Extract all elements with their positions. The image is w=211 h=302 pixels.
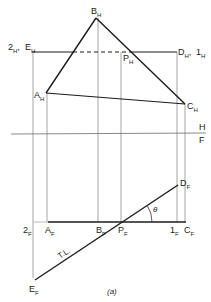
figure-caption: (a) xyxy=(107,287,117,296)
fold-label-h: H xyxy=(199,122,206,132)
label-1-h: 1H xyxy=(196,47,205,59)
label-p-h: PH xyxy=(123,53,133,65)
angle-theta-arc xyxy=(147,205,152,222)
front-view: θ T.L. 2F AF BF PF 1F CF DF EF xyxy=(23,178,195,296)
descriptive-geometry-figure: H F BH 2H, EH PH DH, 1H AH CH θ T.L. 2F … xyxy=(0,0,211,302)
label-p-f: PF xyxy=(118,225,128,237)
label-e-f: EF xyxy=(29,284,39,296)
top-view: BH 2H, EH PH DH, 1H AH CH xyxy=(8,6,205,113)
fold-label-f: F xyxy=(199,135,205,145)
label-b-f: BF xyxy=(96,225,106,237)
label-c-f: CF xyxy=(184,225,195,237)
line-ed-front-true-length xyxy=(35,185,178,280)
projection-lines xyxy=(33,18,185,278)
label-a-h: AH xyxy=(34,90,44,102)
edge-ac-top xyxy=(46,93,185,104)
angle-theta-label: θ xyxy=(153,205,158,214)
label-a-f: AF xyxy=(45,225,55,237)
label-2-h: 2H, xyxy=(8,42,20,54)
label-b-h: BH xyxy=(91,6,101,18)
label-d-h: DH, xyxy=(178,47,191,59)
edge-bc-top xyxy=(96,18,185,104)
label-2-f: 2F xyxy=(23,225,32,237)
true-length-label: T.L. xyxy=(56,246,72,261)
label-c-h: CH xyxy=(187,101,198,113)
label-1-f: 1F xyxy=(170,225,179,237)
label-e-h: EH xyxy=(25,42,35,54)
edge-ab-top xyxy=(46,18,96,93)
